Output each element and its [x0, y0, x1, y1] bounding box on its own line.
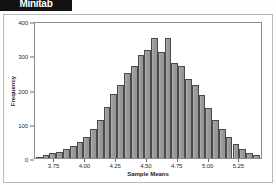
histogram-bar — [77, 142, 84, 158]
y-tick-label: 300 — [18, 54, 28, 60]
x-axis: Sample Means 3.754.004.254.504.755.005.2… — [34, 159, 262, 181]
histogram-bar — [185, 79, 192, 158]
histogram-bar — [233, 144, 240, 158]
plot-area — [34, 22, 262, 159]
y-axis: Frequency 0100200300400 — [4, 22, 34, 160]
histogram-bar — [124, 73, 131, 158]
histogram-bar — [56, 152, 63, 158]
x-tick-mark — [84, 159, 85, 162]
histogram-bar — [212, 120, 219, 158]
histogram-bar — [171, 63, 178, 158]
x-tick-mark — [238, 159, 239, 162]
histogram-bar — [226, 137, 233, 158]
minitab-graph-window: Minitab Frequency 0100200300400 Sample M… — [0, 0, 276, 185]
x-tick-label: 3.75 — [48, 163, 59, 169]
x-tick-mark — [208, 159, 209, 162]
y-tick-label: 0 — [25, 157, 28, 163]
histogram-bar — [138, 55, 145, 158]
x-tick-mark — [177, 159, 178, 162]
y-tick-label: 200 — [18, 89, 28, 95]
histogram-bar — [90, 129, 97, 158]
histogram-bar — [178, 66, 185, 158]
histogram-bar — [97, 120, 104, 158]
histogram-bar — [239, 149, 246, 158]
histogram-bar — [199, 95, 206, 158]
x-tick-label: 4.75 — [171, 163, 182, 169]
x-axis-title: Sample Means — [34, 171, 262, 177]
x-tick-label: 4.25 — [109, 163, 120, 169]
histogram-bar — [83, 137, 90, 158]
x-tick-label: 4.50 — [140, 163, 151, 169]
histogram-bar — [117, 85, 124, 158]
x-tick-mark — [146, 159, 147, 162]
y-tick-label: 100 — [18, 123, 28, 129]
histogram-bar — [219, 129, 226, 158]
histogram-bar — [144, 50, 151, 158]
x-tick-label: 5.00 — [202, 163, 213, 169]
histogram-bar — [158, 52, 165, 158]
histogram-bar — [36, 157, 43, 158]
histogram-bar — [43, 155, 50, 158]
x-tick-mark — [115, 159, 116, 162]
histogram-bar — [70, 146, 77, 158]
minitab-logo-label: Minitab — [20, 0, 53, 8]
histogram-bar — [165, 38, 172, 158]
x-tick-label: 4.00 — [79, 163, 90, 169]
histogram-bar — [110, 94, 117, 158]
x-tick-label: 5.25 — [233, 163, 244, 169]
y-axis-title: Frequency — [10, 61, 16, 121]
histogram-bar — [131, 66, 138, 158]
histogram-bar — [192, 85, 199, 158]
histogram-bar — [246, 153, 253, 158]
x-tick-mark — [53, 159, 54, 162]
histogram-bar — [63, 149, 70, 158]
histogram-bar — [104, 107, 111, 158]
graph-frame: Frequency 0100200300400 Sample Means 3.7… — [3, 14, 273, 183]
histogram-bar — [151, 38, 158, 158]
histogram-bar — [49, 153, 56, 158]
histogram-bar — [205, 108, 212, 158]
histogram-bars — [35, 23, 261, 158]
y-tick-label: 400 — [18, 20, 28, 26]
minitab-logo: Minitab — [0, 0, 72, 11]
histogram-bar — [253, 155, 260, 158]
